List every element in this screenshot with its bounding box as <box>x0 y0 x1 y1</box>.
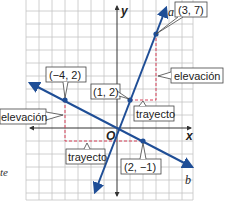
point-2-neg1 <box>140 138 145 143</box>
line-a-label: a <box>168 5 174 19</box>
label-elevacion-left: elevación <box>1 111 47 123</box>
grid <box>26 0 193 200</box>
label-3-7: (3, 7) <box>178 4 204 16</box>
y-axis-label: y <box>120 4 129 18</box>
label-neg4-2: (−4, 2) <box>49 69 81 81</box>
label-2-neg1: (2, −1) <box>124 161 156 173</box>
axes <box>30 6 191 196</box>
coordinate-graph: x y O a b <box>0 0 227 205</box>
cropped-side-text: te <box>0 166 8 178</box>
line-b-label: b <box>185 173 191 187</box>
label-trayecto-left: trayecto <box>68 151 107 163</box>
label-trayecto-right: trayecto <box>136 108 175 120</box>
label-1-2: (1, 2) <box>93 86 119 98</box>
x-axis-label: x <box>185 129 194 143</box>
point-neg4-2 <box>62 97 67 102</box>
label-elevacion-right: elevación <box>174 70 220 82</box>
